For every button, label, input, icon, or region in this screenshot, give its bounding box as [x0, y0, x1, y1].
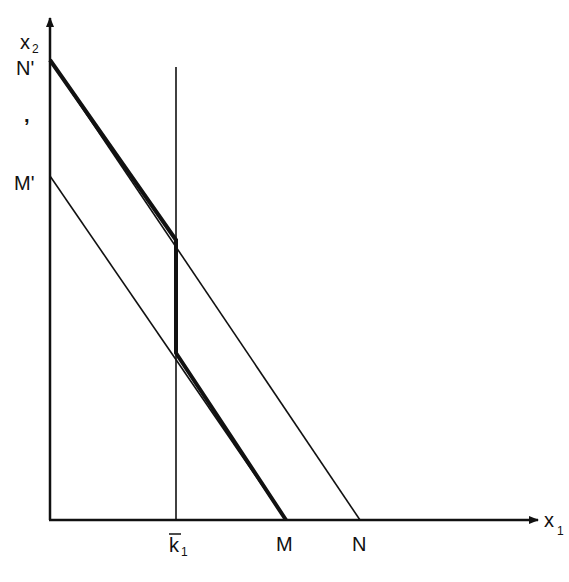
label-k-bar-sub: 1 [181, 545, 188, 559]
budget-constraint-diagram: x 2 N' , M' k 1 M N x 1 [0, 0, 569, 582]
label-n: N [352, 533, 366, 555]
label-m-prime: M' [14, 172, 34, 194]
label-m: M [276, 533, 293, 555]
label-n-prime: N' [16, 57, 34, 79]
label-k-bar: k [169, 534, 180, 556]
y-axis-label-sub: 2 [32, 42, 39, 56]
x-axis-label-sub: 1 [557, 524, 564, 538]
label-comma-mark: , [24, 104, 30, 126]
x-axis-label: x [544, 509, 554, 531]
y-axis-label: x [20, 31, 30, 53]
kinked-constraint-line [50, 60, 286, 520]
